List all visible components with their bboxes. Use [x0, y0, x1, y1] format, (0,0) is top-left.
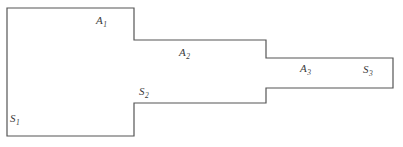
area-label-S2-base: S	[139, 85, 145, 97]
area-label-A2-subscript: 2	[186, 52, 190, 61]
area-label-A1: A1	[96, 15, 107, 26]
area-label-S2: S2	[139, 86, 149, 97]
area-label-A2: A2	[179, 47, 190, 58]
diagram-canvas: A1 A2 A3 S1 S2 S3	[0, 0, 403, 147]
area-label-S3-subscript: 3	[369, 69, 373, 78]
area-label-S2-subscript: 2	[145, 91, 149, 100]
area-label-A1-base: A	[96, 14, 103, 26]
diagram-background	[0, 0, 403, 147]
area-label-A3: A3	[300, 63, 311, 74]
area-label-A1-subscript: 1	[103, 20, 107, 29]
area-label-S3: S3	[363, 64, 373, 75]
area-label-S3-base: S	[363, 63, 369, 75]
area-label-A2-base: A	[179, 46, 186, 58]
area-label-S1-base: S	[10, 112, 16, 124]
area-label-A3-base: A	[300, 62, 307, 74]
area-label-A3-subscript: 3	[307, 68, 311, 77]
area-label-S1: S1	[10, 113, 20, 124]
area-label-S1-subscript: 1	[16, 118, 20, 127]
polygon-outline-svg	[0, 0, 403, 147]
